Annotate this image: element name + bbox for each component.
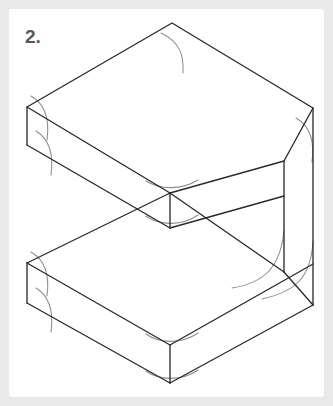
- tutorial-figure-container: 2.: [0, 0, 333, 406]
- back-wall-front-face: [284, 161, 313, 272]
- step-number-label: 2.: [25, 27, 41, 46]
- drawing-panel: 2.: [9, 9, 324, 397]
- isometric-block-drawing: [9, 9, 324, 397]
